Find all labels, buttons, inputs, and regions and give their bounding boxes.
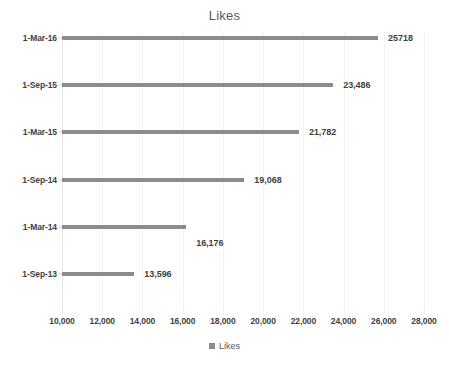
data-label: 16,176 bbox=[196, 238, 223, 248]
x-tick-label: 10,000 bbox=[49, 316, 74, 326]
x-tick-label: 16,000 bbox=[170, 316, 195, 326]
x-tick-label: 20,000 bbox=[250, 316, 275, 326]
x-tick-label: 22,000 bbox=[291, 316, 316, 326]
data-label: 21,782 bbox=[309, 127, 336, 137]
x-tick-label: 12,000 bbox=[90, 316, 115, 326]
x-tick-label: 26,000 bbox=[371, 316, 396, 326]
chart-legend: Likes bbox=[0, 341, 449, 351]
x-axis-labels: 10,00012,00014,00016,00018,00020,00022,0… bbox=[62, 316, 424, 332]
x-tick-label: 18,000 bbox=[210, 316, 235, 326]
x-tick-label: 28,000 bbox=[411, 316, 436, 326]
data-label: 19,068 bbox=[254, 175, 281, 185]
square-swatch-icon bbox=[209, 343, 215, 349]
data-label: 13,596 bbox=[144, 269, 171, 279]
data-labels: 2571823,48621,78219,06816,17613,596 bbox=[0, 32, 449, 315]
chart-title: Likes bbox=[0, 8, 449, 23]
x-tick-label: 24,000 bbox=[331, 316, 356, 326]
legend-item-label: Likes bbox=[219, 341, 240, 351]
data-label: 25718 bbox=[388, 33, 413, 43]
x-tick-label: 14,000 bbox=[130, 316, 155, 326]
data-label: 23,486 bbox=[343, 80, 370, 90]
likes-bar-chart: Likes 1-Mar-161-Sep-151-Mar-151-Sep-141-… bbox=[0, 0, 449, 366]
